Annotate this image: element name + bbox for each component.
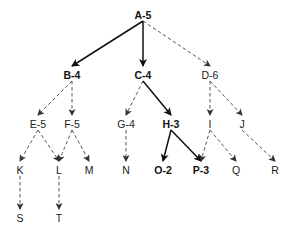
edge-f-l-dashed [59,130,72,161]
edge-c-g-dashed [126,81,143,115]
node-g: G-4 [117,118,135,130]
node-k: K [16,164,23,176]
node-m: M [85,164,94,176]
edge-e-k-dashed [20,130,38,161]
nodes-layer: A-5B-4C-4D-6E-5F-5G-4H-3IJKLMNO-2P-3QRST [16,9,279,224]
node-n: N [122,164,130,176]
node-o: O-2 [154,164,172,176]
edge-f-m-dashed [72,130,89,161]
edges-layer [20,21,275,209]
node-l: L [56,164,62,176]
edge-e-l-dashed [38,130,59,161]
node-c: C-4 [135,69,152,81]
node-i: I [209,118,212,130]
node-d: D-6 [202,69,219,81]
edge-j-r-dashed [242,130,275,161]
edge-h-o-solid [163,130,171,161]
edge-i-q-dashed [210,130,236,161]
node-j: J [239,118,244,130]
search-tree-diagram: A-5B-4C-4D-6E-5F-5G-4H-3IJKLMNO-2P-3QRST [0,0,290,240]
node-r: R [271,164,279,176]
node-q: Q [232,164,240,176]
node-a: A-5 [135,9,152,21]
node-t: T [56,212,63,224]
node-s: S [16,212,23,224]
edge-h-p-solid [171,130,201,161]
node-h: H-3 [163,118,180,130]
edge-a-b-solid [72,21,143,66]
node-b: B-4 [64,69,81,81]
node-e: E-5 [30,118,47,130]
edge-b-e-dashed [38,81,72,115]
edge-i-p-dashed [201,130,210,161]
edge-d-j-dashed [210,81,242,115]
node-f: F-5 [64,118,80,130]
node-p: P-3 [193,164,210,176]
edge-a-d-dashed [143,21,210,66]
edge-c-h-solid [143,81,171,115]
